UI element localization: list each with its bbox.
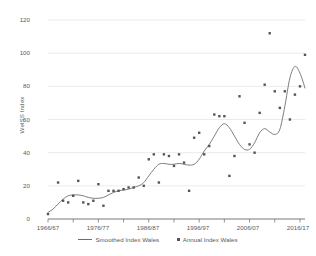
legend-item-annual: Annual Index Wales — [177, 236, 237, 243]
data-point — [82, 201, 84, 203]
data-point — [193, 137, 195, 139]
data-point — [97, 183, 99, 185]
data-point — [138, 176, 140, 178]
data-point — [243, 122, 245, 124]
data-point — [218, 115, 220, 117]
data-point — [233, 155, 235, 157]
data-point — [158, 181, 160, 183]
data-point — [203, 153, 205, 155]
data-point — [188, 190, 190, 192]
data-point — [117, 190, 119, 192]
data-point — [77, 180, 79, 182]
data-point — [213, 113, 215, 115]
chart-container: WelSS Index 120 100 80 60 40 20 0 1966/6… — [0, 0, 316, 256]
gridlines — [48, 20, 305, 186]
data-point — [122, 188, 124, 190]
chart-legend: Smoothed Index Wales Annual Index Wales — [0, 236, 316, 243]
plot-area — [0, 0, 316, 256]
data-point — [238, 95, 240, 97]
data-point — [67, 201, 69, 203]
data-point — [153, 153, 155, 155]
data-point — [178, 153, 180, 155]
data-point — [289, 118, 291, 120]
data-point — [258, 112, 260, 114]
data-point — [72, 195, 74, 197]
data-point — [269, 32, 271, 34]
data-point — [223, 115, 225, 117]
smoothed-index-line — [48, 66, 305, 212]
data-point — [132, 186, 134, 188]
data-point — [47, 213, 49, 215]
data-point — [163, 153, 165, 155]
data-point — [168, 155, 170, 157]
data-point — [294, 93, 296, 95]
data-point — [183, 161, 185, 163]
data-point — [198, 132, 200, 134]
data-point — [253, 151, 255, 153]
legend-line-swatch — [78, 239, 92, 240]
legend-item-smoothed: Smoothed Index Wales — [78, 236, 159, 243]
data-point — [62, 200, 64, 202]
legend-label-smoothed: Smoothed Index Wales — [95, 236, 159, 243]
data-point — [127, 186, 129, 188]
data-point — [248, 143, 250, 145]
data-point — [173, 165, 175, 167]
data-point — [284, 90, 286, 92]
legend-label-annual: Annual Index Wales — [183, 236, 238, 243]
data-point — [263, 83, 265, 85]
data-point — [279, 107, 281, 109]
data-point — [274, 90, 276, 92]
legend-dot-swatch — [177, 238, 180, 241]
data-point — [299, 85, 301, 87]
data-point — [102, 205, 104, 207]
data-point — [57, 181, 59, 183]
data-point — [87, 203, 89, 205]
data-point — [148, 158, 150, 160]
data-point — [107, 190, 109, 192]
data-point — [92, 200, 94, 202]
data-point — [143, 185, 145, 187]
data-point — [112, 190, 114, 192]
data-point — [304, 54, 306, 56]
data-point — [208, 145, 210, 147]
annual-index-points — [47, 32, 306, 215]
data-point — [228, 175, 230, 177]
